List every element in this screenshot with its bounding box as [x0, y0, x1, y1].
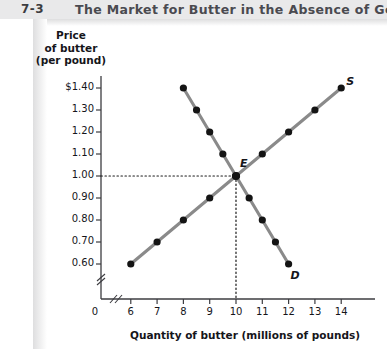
y-axis-tick-label: 1.00 [32, 169, 94, 180]
x-axis-tick-label: 10 [226, 306, 246, 317]
y-axis-tick-label: 0.90 [32, 191, 94, 202]
x-axis-tick-label: 13 [305, 306, 325, 317]
curve-label-s: S [346, 75, 354, 88]
x-axis-tick-label: 11 [252, 306, 272, 317]
x-axis-tick-label: 7 [147, 306, 167, 317]
figure-container: FIGURE 7-3 The Market for Butter in the … [0, 0, 387, 349]
y-axis-tick-label: 1.10 [32, 147, 94, 158]
curve-label-d: D [291, 269, 300, 282]
x-axis-tick-label: 14 [331, 306, 351, 317]
x-axis-tick-label: 6 [121, 306, 141, 317]
y-axis-tick-label: 1.30 [32, 103, 94, 114]
y-axis-tick-label: 1.20 [32, 125, 94, 136]
x-axis-tick-label: 12 [279, 306, 299, 317]
y-axis-tick-label: 0.60 [32, 257, 94, 268]
y-axis-tick-label: $1.40 [32, 81, 94, 92]
equilibrium-point-label: E [240, 157, 248, 170]
y-axis-tick-label: 0.80 [32, 213, 94, 224]
axis-origin-label: 0 [85, 306, 105, 317]
x-axis-tick-label: 9 [200, 306, 220, 317]
x-axis-tick-label: 8 [173, 306, 193, 317]
y-axis-tick-label: 0.70 [32, 235, 94, 246]
